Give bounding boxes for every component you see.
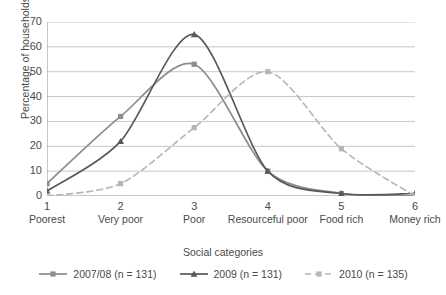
data-point bbox=[265, 69, 270, 74]
y-tick-label: 20 bbox=[12, 140, 42, 151]
gridlines bbox=[47, 22, 415, 196]
data-point bbox=[47, 181, 50, 186]
y-tick-label: 70 bbox=[12, 16, 42, 27]
data-point bbox=[339, 146, 344, 151]
y-tick-label: 10 bbox=[12, 165, 42, 176]
legend-item-3[interactable]: 2010 (n = 135) bbox=[304, 268, 408, 280]
legend-label: 2010 (n = 135) bbox=[339, 268, 408, 280]
x-tick-number: 3 bbox=[154, 201, 234, 213]
data-point bbox=[47, 193, 50, 196]
legend-label: 2007/08 (n = 131) bbox=[73, 268, 156, 280]
x-tick-number: 4 bbox=[228, 201, 308, 213]
legend-item-1[interactable]: 2007/08 (n = 131) bbox=[38, 268, 156, 280]
x-axis-title: Social categories bbox=[0, 246, 446, 258]
data-point bbox=[118, 114, 123, 119]
legend-marker-icon bbox=[304, 268, 334, 280]
data-point bbox=[118, 181, 123, 186]
x-tick-number: 6 bbox=[375, 201, 446, 213]
legend-item-2[interactable]: 2009 (n = 131) bbox=[179, 268, 283, 280]
line-chart: Percentage of households 706050403020100… bbox=[0, 0, 446, 295]
y-tick-label: 30 bbox=[12, 115, 42, 126]
x-tick-name: Money rich bbox=[370, 214, 446, 226]
chart-legend: 2007/08 (n = 131)2009 (n = 131)2010 (n =… bbox=[0, 268, 446, 280]
series-line bbox=[47, 63, 415, 196]
x-tick-number: 5 bbox=[301, 201, 381, 213]
y-tick-label: 0 bbox=[12, 190, 42, 201]
plot-svg bbox=[47, 22, 415, 196]
plot-area bbox=[47, 22, 415, 196]
y-tick-label: 40 bbox=[12, 91, 42, 102]
legend-marker-icon bbox=[38, 268, 68, 280]
axis-lines bbox=[47, 22, 415, 196]
y-tick-label: 50 bbox=[12, 66, 42, 77]
series-1 bbox=[47, 62, 415, 196]
y-tick-label: 60 bbox=[12, 41, 42, 52]
x-tick-number: 1 bbox=[7, 201, 87, 213]
data-point bbox=[192, 62, 197, 67]
x-tick-number: 2 bbox=[81, 201, 161, 213]
legend-label: 2009 (n = 131) bbox=[214, 268, 283, 280]
legend-marker-icon bbox=[179, 268, 209, 280]
series-line bbox=[47, 72, 415, 196]
data-point bbox=[412, 193, 415, 196]
data-point bbox=[192, 125, 197, 130]
